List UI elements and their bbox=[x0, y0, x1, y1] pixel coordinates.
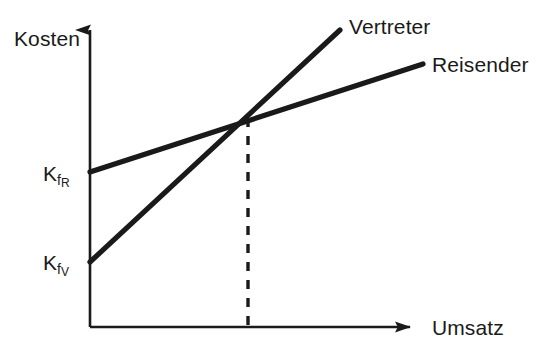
intercept-symbol-kfr: K bbox=[43, 162, 57, 185]
series-label-vertreter: Vertreter bbox=[349, 16, 430, 37]
x-axis-title: Umsatz bbox=[432, 317, 504, 338]
intercept-subsub-kfr: R bbox=[61, 176, 70, 190]
cost-comparison-diagram: Kosten Umsatz Vertreter Reisender KfR Kf… bbox=[0, 0, 541, 352]
series-label-reisender: Reisender bbox=[432, 54, 529, 75]
intercept-symbol-kfv: K bbox=[43, 251, 57, 274]
reisender-cost-line bbox=[90, 64, 423, 172]
intercept-subsub-kfv: V bbox=[61, 265, 69, 279]
y-axis-title: Kosten bbox=[14, 28, 80, 49]
vertreter-cost-line bbox=[90, 30, 340, 262]
intercept-label-vertreter: KfV bbox=[43, 252, 69, 273]
intercept-label-reisender: KfR bbox=[43, 163, 70, 184]
